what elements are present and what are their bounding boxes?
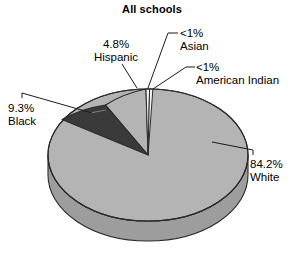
callout-label-hispanic: 4.8% Hispanic <box>88 38 144 63</box>
leader-line-american-indian <box>153 67 195 89</box>
callout-percent-hispanic: 4.8% <box>88 38 144 51</box>
callout-label-asian: <1% Asian <box>180 27 209 52</box>
callout-percent-black: 9.3% <box>8 102 36 115</box>
callout-percent-american-indian: <1% <box>196 61 279 74</box>
callout-group-black: Black <box>8 115 36 128</box>
callout-group-hispanic: Hispanic <box>88 51 144 64</box>
callout-label-black: 9.3% Black <box>8 102 36 127</box>
callout-group-asian: Asian <box>180 40 209 53</box>
leader-line-asian <box>148 33 178 88</box>
callout-group-white: White <box>250 171 283 184</box>
pie-3d-body <box>48 89 248 241</box>
callout-label-american-indian: <1% American Indian <box>196 61 279 86</box>
callout-percent-white: 84.2% <box>250 158 283 171</box>
callout-group-american-indian: American Indian <box>196 74 279 87</box>
callout-label-white: 84.2% White <box>250 158 283 183</box>
pie-chart-figure: All schools <box>0 0 304 258</box>
pie-chart-graphic <box>0 0 304 258</box>
callout-percent-asian: <1% <box>180 27 209 40</box>
leader-line-hispanic <box>122 64 137 88</box>
